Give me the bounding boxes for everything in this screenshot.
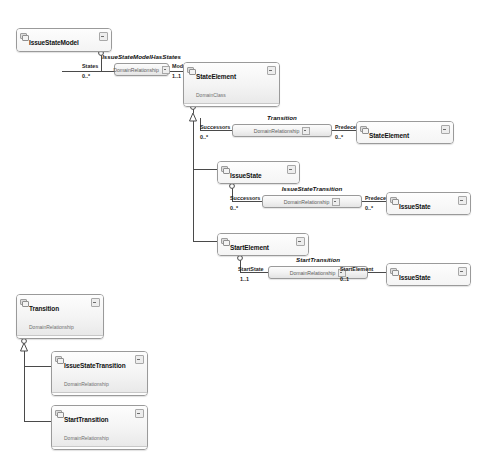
compartment-title: Domain Properties: [64, 449, 114, 451]
shape-issue-state-target[interactable]: IssueState DomainClass: [386, 192, 471, 215]
relationship-box[interactable]: DomainRelationship: [262, 195, 362, 208]
compartment-title-row[interactable]: Domain Properties: [20, 338, 100, 340]
diagram-canvas[interactable]: IssueStateModel DomainClass IssueStateMo…: [0, 0, 486, 463]
multiplicity-model: 1..1: [172, 73, 181, 79]
multiplicity-start-element: 0..1: [340, 276, 349, 282]
start-element-anchor: [238, 256, 243, 261]
shape-header: IssueStateModel DomainClass: [17, 29, 111, 52]
compartment-title: Domain Properties: [64, 395, 114, 397]
compartment-title: Domain Properties: [196, 106, 246, 108]
shape-start-transition-derived[interactable]: StartTransition DomainRelationship Domai…: [51, 405, 148, 450]
collapse-icon[interactable]: [302, 127, 310, 135]
collapse-icon[interactable]: [135, 355, 144, 364]
domain-class-icon: [187, 66, 194, 73]
shape-header: IssueState DomainClass: [218, 162, 299, 184]
shape-stereotype: DomainClass: [196, 92, 226, 98]
multiplicity-predecessors: 0..*: [365, 205, 373, 211]
shape-header: StartElement DomainClass: [218, 234, 308, 256]
relationship-issue-state-transition[interactable]: IssueStateTransition DomainRelationship: [262, 195, 362, 208]
compartment-domain-properties: Domain Properties: [52, 392, 147, 396]
shape-header: Transition DomainRelationship: [17, 295, 103, 335]
shape-header: StartTransition DomainRelationship: [52, 406, 147, 446]
collapse-icon[interactable]: [441, 125, 450, 134]
collapse-icon[interactable]: [458, 196, 467, 205]
shape-stereotype: DomainRelationship: [64, 435, 109, 441]
multiplicity-successors: 0..*: [200, 134, 208, 140]
relationship-name: IssueStateTransition: [282, 185, 343, 192]
compartment-title-row[interactable]: Domain Properties: [187, 106, 276, 108]
shape-header: IssueStateTransition DomainRelationship: [52, 352, 147, 392]
shape-header: StateElement DomainClass: [184, 63, 279, 103]
domain-class-icon: [20, 32, 27, 39]
domain-relationship-icon: [55, 355, 62, 362]
expander-icon[interactable]: [187, 106, 194, 107]
shape-title: IssueState: [230, 172, 262, 179]
shape-header: IssueState DomainClass: [387, 264, 470, 286]
domain-class-icon: [360, 125, 367, 132]
relationship-kind-label: DomainRelationship: [254, 128, 300, 134]
generalization-arrow-transition: [21, 343, 28, 351]
relationship-name: StartTransition: [296, 256, 340, 263]
shape-title: StateElement: [196, 73, 236, 80]
shape-issue-state[interactable]: IssueState DomainClass: [217, 161, 300, 184]
shape-header: StateElement DomainClass: [357, 122, 453, 144]
role-label-successors: Successors: [230, 195, 260, 201]
domain-relationship-icon: [55, 409, 62, 416]
shape-stereotype: DomainRelationship: [29, 324, 74, 330]
compartment-title-row[interactable]: Domain Properties: [55, 449, 144, 451]
multiplicity-start-state: 1..1: [240, 276, 249, 282]
role-label-successors: Successors: [200, 124, 230, 130]
relationship-transition[interactable]: Transition DomainRelationship: [232, 124, 332, 137]
relationship-model-has-states[interactable]: IssueStateModelHasStates DomainRelations…: [114, 63, 169, 76]
collapse-icon[interactable]: [135, 409, 144, 418]
shape-state-element-target[interactable]: StateElement DomainClass: [356, 121, 454, 144]
relationship-box[interactable]: DomainRelationship: [232, 124, 332, 137]
shape-title: StateElement: [369, 132, 409, 139]
shape-title: StartTransition: [64, 416, 108, 423]
shape-header: IssueState DomainClass: [387, 193, 470, 215]
collapse-icon[interactable]: [91, 298, 100, 307]
domain-class-icon: [390, 196, 397, 203]
shape-title: Transition: [29, 305, 59, 312]
shape-transition-base[interactable]: Transition DomainRelationship Domain Pro…: [16, 294, 104, 339]
collapse-icon[interactable]: [99, 32, 108, 41]
collapse-icon[interactable]: [287, 165, 296, 174]
domain-relationship-icon: [20, 298, 27, 305]
shape-start-element[interactable]: StartElement DomainClass: [217, 233, 309, 256]
shape-issue-state-start-target[interactable]: IssueState DomainClass: [386, 263, 471, 286]
shape-issue-state-transition-derived[interactable]: IssueStateTransition DomainRelationship …: [51, 351, 148, 396]
relationship-kind-label: DomainRelationship: [113, 67, 159, 73]
shape-state-element[interactable]: StateElement DomainClass Domain Properti…: [183, 62, 280, 107]
collapse-icon[interactable]: [458, 267, 467, 276]
collapse-icon[interactable]: [267, 66, 276, 75]
role-label-states: States: [82, 63, 98, 69]
relationship-box[interactable]: DomainRelationship: [114, 63, 169, 76]
generalization-arrow-state-element: [190, 113, 197, 121]
collapse-icon[interactable]: [332, 198, 340, 206]
issue-state-anchor: [230, 184, 235, 189]
compartment-title-row[interactable]: Domain Properties: [55, 395, 144, 397]
domain-class-icon: [221, 165, 228, 172]
transition-base-anchor: [22, 339, 27, 344]
domain-class-icon: [390, 267, 397, 274]
compartment-domain-properties: Domain Properties Name : String: [184, 103, 279, 107]
role-label-start-state: StartState: [238, 266, 263, 272]
shape-title: IssueState: [399, 203, 431, 210]
shape-title: StartElement: [230, 244, 269, 251]
multiplicity-states: 0..*: [82, 73, 90, 79]
role-label-start-element: StartElement: [340, 266, 373, 272]
expander-icon[interactable]: [55, 449, 62, 450]
domain-class-icon: [221, 237, 228, 244]
multiplicity-successors: 0..*: [230, 205, 238, 211]
expander-icon[interactable]: [55, 395, 62, 396]
expander-icon[interactable]: [20, 338, 27, 339]
compartment-domain-properties: Domain Properties: [52, 446, 147, 450]
relationship-name: Transition: [267, 114, 297, 121]
collapse-icon[interactable]: [162, 66, 170, 74]
shape-title: IssueStateModel: [29, 39, 79, 46]
shape-title: IssueStateTransition: [64, 362, 126, 369]
relationship-kind-label: DomainRelationship: [290, 270, 336, 276]
collapse-icon[interactable]: [296, 237, 305, 246]
compartment-title: Domain Properties: [29, 338, 79, 340]
shape-issue-state-model[interactable]: IssueStateModel DomainClass: [16, 28, 112, 52]
